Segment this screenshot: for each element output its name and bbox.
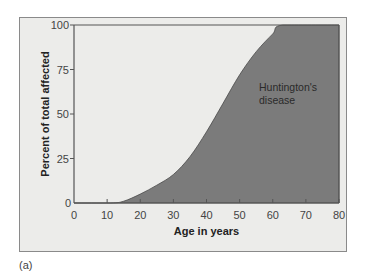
x-tick-label: 10 [101, 209, 113, 221]
y-axis-title: Percent of total affected [39, 51, 51, 176]
y-tick-label: 50 [57, 108, 69, 120]
x-tick-label: 20 [134, 209, 146, 221]
x-tick-label: 0 [71, 209, 77, 221]
huntingtons-area [74, 25, 339, 203]
panel-caption: (a) [19, 259, 32, 271]
y-tick-label: 25 [57, 153, 69, 165]
y-tick-label: 100 [51, 19, 69, 31]
area-label-line1: Huntington's [259, 81, 317, 93]
x-tick-label: 30 [167, 209, 179, 221]
area-label-line2: disease [259, 94, 295, 106]
y-tick-label: 75 [57, 64, 69, 76]
x-tick-label: 40 [200, 209, 212, 221]
x-axis-title: Age in years [174, 225, 239, 237]
y-tick-label: 0 [65, 197, 71, 209]
x-tick-label: 70 [300, 209, 312, 221]
x-tick-label: 50 [234, 209, 246, 221]
area-chart: 010203040506070800255075100Age in yearsP… [0, 0, 365, 277]
x-tick-label: 60 [267, 209, 279, 221]
x-tick-label: 80 [333, 209, 345, 221]
